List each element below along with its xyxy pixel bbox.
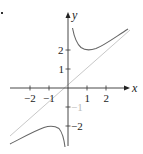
y-axis-arrow-icon [66, 12, 71, 18]
corner-mark [1, 12, 3, 14]
x-tick-label: −1 [43, 92, 55, 104]
y-tick-label: −2 [71, 120, 83, 132]
graph: x y −2 −1 1 2 2 1 −1 −2 [0, 0, 143, 154]
x-tick-label: −2 [24, 92, 36, 104]
x-axis-arrow-icon [124, 86, 130, 91]
asymptote-line [10, 30, 130, 136]
y-tick-label: −1 [71, 101, 83, 113]
y-tick-label: 1 [59, 63, 65, 75]
y-tick-label: 2 [58, 44, 64, 56]
x-axis-label: x [131, 81, 138, 95]
x-tick-label: 1 [85, 92, 91, 104]
y-axis-label: y [71, 8, 78, 22]
x-tick-label: 2 [104, 92, 110, 104]
